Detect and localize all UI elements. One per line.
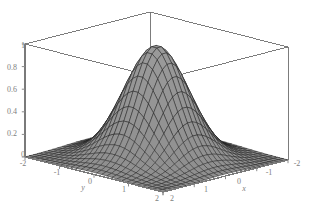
surface-plot-figure: 10.80.60.40.20-2-1012210-1-2yx <box>0 0 311 220</box>
axis-name-x: x <box>241 184 246 193</box>
axis-name-y: y <box>80 183 85 192</box>
z-tick-label-0: 1 <box>21 41 25 50</box>
surface-plot-canvas: 10.80.60.40.20-2-1012210-1-2yx <box>0 0 311 220</box>
y-tick-label-4: 2 <box>155 194 159 203</box>
x-tick-label-1: 1 <box>204 185 208 194</box>
z-tick-label-1: 0.8 <box>7 63 17 72</box>
y-tick-label-0: -2 <box>20 159 27 168</box>
y-tick-label-3: 1 <box>122 185 126 194</box>
x-tick-label-2: 0 <box>237 177 241 186</box>
z-tick-label-3: 0.4 <box>7 107 17 116</box>
y-tick-label-2: 0 <box>88 177 92 186</box>
x-tick-label-3: -1 <box>266 168 273 177</box>
y-tick-label-1: -1 <box>54 168 61 177</box>
z-tick-label-5: 0 <box>21 150 25 159</box>
x-tick-label-0: 2 <box>170 194 174 203</box>
z-tick-label-4: 0.2 <box>7 129 17 138</box>
x-tick-label-4: -2 <box>294 159 301 168</box>
z-tick-label-2: 0.6 <box>7 85 17 94</box>
